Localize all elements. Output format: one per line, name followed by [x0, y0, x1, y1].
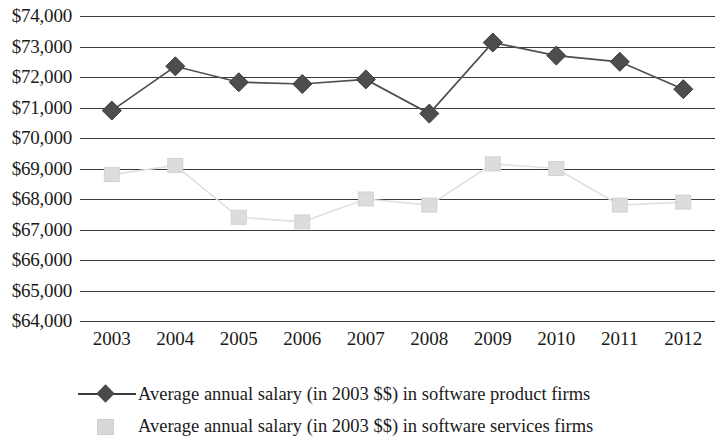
- data-point-square: [549, 162, 564, 176]
- x-axis: 2003200420052006200720082009201020112012: [80, 328, 715, 358]
- x-tick-label: 2009: [474, 328, 512, 350]
- x-tick-label: 2007: [347, 328, 385, 350]
- x-tick-label: 2008: [410, 328, 448, 350]
- y-tick-label: $70,000: [0, 128, 72, 147]
- data-point-diamond: [166, 57, 185, 76]
- y-tick-label: $67,000: [0, 220, 72, 239]
- x-tick-label: 2004: [156, 328, 194, 350]
- legend-item-services[interactable]: Average annual salary (in 2003 $$) in so…: [0, 410, 715, 442]
- data-point-square: [422, 198, 437, 212]
- data-point-diamond: [229, 73, 248, 92]
- series-line: [112, 164, 684, 222]
- plot-area: [80, 16, 715, 321]
- y-tick-label: $71,000: [0, 98, 72, 117]
- series-line: [112, 43, 684, 114]
- y-tick-label: $68,000: [0, 189, 72, 208]
- data-point-diamond: [547, 46, 566, 65]
- x-tick-label: 2011: [601, 328, 638, 350]
- data-point-square: [231, 210, 246, 224]
- data-point-diamond: [293, 75, 312, 94]
- x-tick-label: 2012: [664, 328, 702, 350]
- x-tick-label: 2005: [220, 328, 258, 350]
- gridline: [80, 321, 715, 322]
- data-point-square: [485, 157, 500, 171]
- y-tick-label: $66,000: [0, 250, 72, 269]
- data-point-square: [612, 198, 627, 212]
- y-tick-label: $65,000: [0, 281, 72, 300]
- y-tick-label: $73,000: [0, 37, 72, 56]
- y-tick-label: $74,000: [0, 6, 72, 25]
- x-tick-label: 2010: [537, 328, 575, 350]
- legend-item-product[interactable]: Average annual salary (in 2003 $$) in so…: [0, 378, 715, 410]
- y-tick-label: $64,000: [0, 311, 72, 330]
- data-point-diamond: [610, 52, 629, 71]
- data-point-square: [676, 195, 691, 209]
- y-tick-label: $69,000: [0, 159, 72, 178]
- line-diamond-marker-icon: [76, 383, 138, 405]
- series-layer: [80, 16, 715, 321]
- data-point-diamond: [674, 80, 693, 99]
- data-point-square: [358, 192, 373, 206]
- chart-legend: Average annual salary (in 2003 $$) in so…: [0, 378, 715, 442]
- legend-label-services: Average annual salary (in 2003 $$) in so…: [138, 415, 593, 437]
- data-point-diamond: [356, 70, 375, 89]
- salary-line-chart: $74,000$73,000$72,000$71,000$70,000$69,0…: [0, 0, 715, 443]
- square-marker-icon: [76, 415, 138, 437]
- data-point-square: [104, 168, 119, 182]
- data-point-square: [168, 158, 183, 172]
- x-tick-label: 2003: [93, 328, 131, 350]
- data-point-diamond: [102, 101, 121, 120]
- y-tick-label: $72,000: [0, 67, 72, 86]
- legend-label-product: Average annual salary (in 2003 $$) in so…: [138, 383, 590, 405]
- data-point-square: [295, 215, 310, 229]
- x-tick-label: 2006: [283, 328, 321, 350]
